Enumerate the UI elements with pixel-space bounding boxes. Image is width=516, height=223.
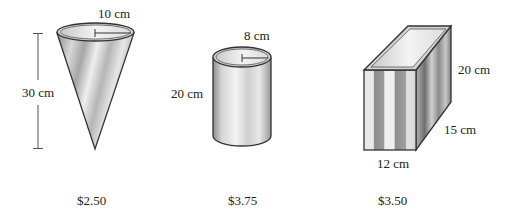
box-width-label: 12 cm: [377, 156, 409, 171]
cylinder-price: $3.75: [228, 193, 257, 208]
box-height-label: 20 cm: [458, 62, 490, 77]
cone-radius-label: 10 cm: [98, 6, 130, 21]
box-depth-label: 15 cm: [444, 122, 476, 137]
cylinder-body: [213, 58, 271, 146]
box-price: $3.50: [378, 193, 407, 208]
cone-price: $2.50: [77, 193, 106, 208]
cone-figure: 10 cm 30 cm $2.50: [22, 6, 134, 208]
box-figure: 20 cm 15 cm 12 cm $3.50: [364, 26, 490, 208]
cone-height-label: 30 cm: [22, 85, 54, 100]
containers-diagram: 10 cm 30 cm $2.50 8 cm 20 cm $3.75 20 cm…: [0, 0, 516, 223]
cylinder-radius-label: 8 cm: [244, 28, 270, 43]
cylinder-figure: 8 cm 20 cm $3.75: [171, 28, 271, 208]
cone-body: [57, 33, 134, 149]
box-front-face: [364, 70, 416, 150]
cylinder-height-label: 20 cm: [171, 86, 203, 101]
